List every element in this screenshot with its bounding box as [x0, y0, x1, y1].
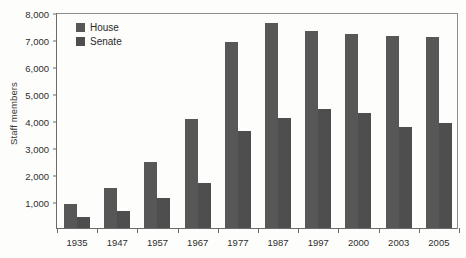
bar-house-1957: [144, 162, 157, 228]
bar-house-1987: [265, 23, 278, 228]
bar-group: [137, 14, 177, 228]
x-axis-tick: [178, 228, 179, 233]
bar-house-2005: [426, 37, 439, 228]
x-axis-tick: [97, 228, 98, 233]
x-axis-tick: [57, 228, 58, 233]
staff-members-bar-chart: Staff members 8,0007,0006,0005,0004,0003…: [0, 0, 466, 258]
y-axis-tick-label: 1,000: [25, 198, 53, 209]
y-axis-tick-label: 4,000: [25, 117, 53, 128]
bar-group: [338, 14, 378, 228]
bar-house-1947: [104, 188, 117, 229]
x-axis-tick: [137, 228, 138, 233]
bar-house-2000: [345, 34, 358, 228]
bar-house-1997: [305, 31, 318, 228]
x-axis-label-1997: 1997: [308, 237, 329, 248]
bar-senate-2003: [399, 127, 412, 228]
bar-house-1935: [64, 204, 77, 228]
bar-group: [258, 14, 298, 228]
bar-senate-1947: [117, 211, 130, 228]
y-axis-tick-mark: [53, 68, 57, 69]
y-axis-tick-label: 7,000: [25, 36, 53, 47]
y-axis-tick-label: 8,000: [25, 9, 53, 20]
x-axis-tick: [379, 228, 380, 233]
bar-senate-2005: [439, 123, 452, 228]
bar-senate-1977: [238, 131, 251, 228]
y-axis-tick-mark: [53, 14, 57, 15]
x-axis-label-1977: 1977: [227, 237, 248, 248]
bar-senate-2000: [358, 113, 371, 228]
y-axis-tick: 2,000: [25, 171, 57, 182]
legend-item-house: House: [76, 22, 122, 33]
y-axis-tick-mark: [53, 122, 57, 123]
x-axis-label-1935: 1935: [67, 237, 88, 248]
bar-senate-1967: [198, 183, 211, 228]
bar-group: [218, 14, 258, 228]
y-axis-tick: 8,000: [25, 9, 57, 20]
x-axis-label-1987: 1987: [268, 237, 289, 248]
bar-house-1967: [185, 119, 198, 228]
y-axis-tick-mark: [53, 203, 57, 204]
bar-senate-1987: [278, 118, 291, 228]
y-axis-tick-mark: [53, 41, 57, 42]
y-axis-tick: 1,000: [25, 198, 57, 209]
x-axis-tick: [338, 228, 339, 233]
chart-legend: HouseSenate: [76, 22, 122, 50]
y-axis-tick: 5,000: [25, 90, 57, 101]
x-axis-tick: [459, 228, 460, 233]
bar-group: [379, 14, 419, 228]
x-axis-tick: [218, 228, 219, 233]
y-axis-tick-label: 5,000: [25, 90, 53, 101]
bar-senate-1997: [318, 109, 331, 228]
bar-senate-1935: [77, 217, 90, 228]
x-axis-tick: [258, 228, 259, 233]
legend-swatch-senate: [76, 37, 85, 46]
y-axis-tick-mark: [53, 176, 57, 177]
y-axis-tick-label: 2,000: [25, 171, 53, 182]
x-axis-label-1957: 1957: [147, 237, 168, 248]
legend-swatch-house: [76, 23, 85, 32]
y-axis-title: Staff members: [8, 49, 19, 179]
y-axis-tick-mark: [53, 95, 57, 96]
y-axis-tick-mark: [53, 149, 57, 150]
x-axis-tick: [419, 228, 420, 233]
bar-group: [178, 14, 218, 228]
legend-item-senate: Senate: [76, 36, 122, 47]
bar-house-2003: [386, 36, 399, 228]
bar-group: [298, 14, 338, 228]
y-axis-tick: 7,000: [25, 36, 57, 47]
x-axis-label-2005: 2005: [428, 237, 449, 248]
y-axis-tick-label: 6,000: [25, 63, 53, 74]
y-axis-tick-label: 3,000: [25, 144, 53, 155]
legend-label: House: [90, 22, 119, 33]
x-axis-label-1967: 1967: [187, 237, 208, 248]
y-axis-tick: 6,000: [25, 63, 57, 74]
y-axis-tick: 3,000: [25, 144, 57, 155]
bar-group: [419, 14, 459, 228]
bar-house-1977: [225, 42, 238, 228]
bar-senate-1957: [157, 198, 170, 228]
x-axis-tick: [298, 228, 299, 233]
x-axis-label-2003: 2003: [388, 237, 409, 248]
x-axis-label-2000: 2000: [348, 237, 369, 248]
x-axis-label-1947: 1947: [107, 237, 128, 248]
legend-label: Senate: [90, 36, 122, 47]
y-axis-tick: 4,000: [25, 117, 57, 128]
